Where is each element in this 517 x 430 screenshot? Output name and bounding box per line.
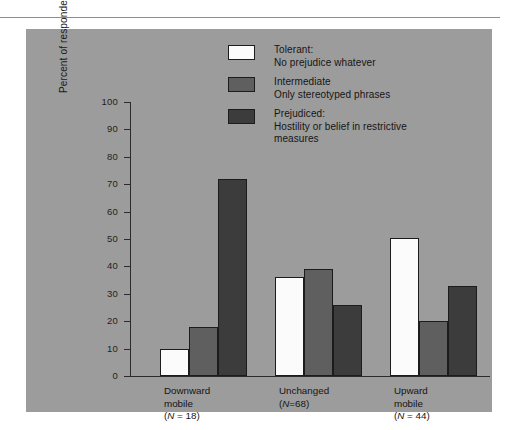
- x-axis-group-label-line: Upward: [394, 385, 430, 398]
- x-axis-group-label-line: Unchanged: [279, 385, 329, 398]
- legend-label-tolerant-line1: Tolerant:: [274, 44, 478, 57]
- figure-page: Tolerant: No prejudice whatever Intermed…: [0, 0, 517, 430]
- x-axis-group-label-line: mobile: [394, 398, 430, 411]
- y-tick-label: 40: [92, 260, 118, 271]
- x-axis-group-label-line: (N = 18): [164, 410, 210, 423]
- y-tick-mark: [124, 266, 130, 267]
- bar: [333, 305, 362, 376]
- chart-panel: Tolerant: No prejudice whatever Intermed…: [26, 29, 492, 412]
- bar-group: [390, 102, 477, 376]
- bar: [189, 327, 218, 376]
- legend-label-tolerant-line2: No prejudice whatever: [274, 57, 478, 70]
- bar: [304, 269, 333, 376]
- bar: [419, 321, 448, 376]
- bar-groups: [131, 102, 491, 376]
- y-axis-title: Percent of respondents within each categ…: [58, 0, 69, 93]
- bar: [448, 286, 477, 376]
- y-tick-mark: [124, 321, 130, 322]
- bar: [160, 349, 189, 376]
- y-tick-mark: [124, 157, 130, 158]
- y-tick-label: 20: [92, 315, 118, 326]
- y-tick-mark: [124, 129, 130, 130]
- bar-group: [275, 102, 362, 376]
- y-tick-mark: [124, 239, 130, 240]
- x-axis-line: [130, 376, 490, 377]
- y-tick-label: 90: [92, 123, 118, 134]
- x-axis-group-label-line: (N=68): [279, 398, 329, 411]
- bar: [275, 277, 304, 376]
- legend-swatch-tolerant-icon: [228, 45, 255, 60]
- bar: [390, 238, 419, 376]
- y-tick-label: 80: [92, 151, 118, 162]
- x-axis-group-label: Upwardmobile(N = 44): [394, 385, 430, 423]
- y-tick-label: 50: [92, 233, 118, 244]
- x-axis-group-label-line: Downward: [164, 385, 210, 398]
- y-tick-mark: [124, 184, 130, 185]
- y-tick-label: 70: [92, 178, 118, 189]
- y-tick-mark: [124, 349, 130, 350]
- bar-group: [160, 102, 247, 376]
- x-axis-group-label: Unchanged(N=68): [279, 385, 329, 410]
- top-divider-rule: [0, 17, 500, 18]
- plot-area: Percent of respondents within each categ…: [104, 73, 492, 391]
- y-tick-label: 0: [92, 370, 118, 381]
- y-tick-label: 100: [92, 96, 118, 107]
- y-tick-mark: [124, 212, 130, 213]
- x-axis-group-label-line: (N = 44): [394, 410, 430, 423]
- y-tick-mark: [124, 294, 130, 295]
- y-tick-label: 60: [92, 206, 118, 217]
- y-tick-mark: [124, 376, 130, 377]
- x-axis-group-label-line: mobile: [164, 398, 210, 411]
- y-tick-label: 30: [92, 288, 118, 299]
- x-axis-group-label: Downwardmobile(N = 18): [164, 385, 210, 423]
- bar: [218, 179, 247, 376]
- y-tick-label: 10: [92, 343, 118, 354]
- legend-item-tolerant: Tolerant: No prejudice whatever: [228, 44, 478, 70]
- y-tick-mark: [124, 102, 130, 103]
